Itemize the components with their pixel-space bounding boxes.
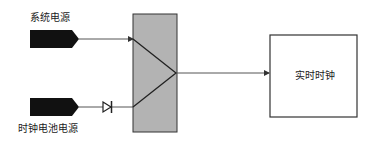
system-power-label: 系统电源 — [30, 12, 70, 24]
power-selector-block — [133, 14, 177, 132]
diode-icon — [103, 101, 112, 113]
battery-power-connector — [30, 98, 79, 116]
rtc-label: 实时时钟 — [295, 70, 335, 82]
battery-power-label: 时钟电池电源 — [18, 123, 78, 135]
system-power-connector — [30, 30, 79, 48]
